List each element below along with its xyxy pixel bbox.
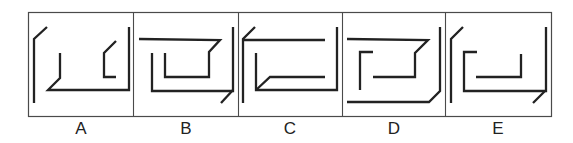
option-label-b: B	[180, 119, 191, 138]
option-panel-b[interactable]: B	[139, 27, 233, 138]
inner-diagonal-stroke	[256, 77, 325, 90]
option-panel-e[interactable]: E	[451, 27, 546, 138]
option-label-e: E	[492, 119, 503, 138]
diagonal-tail-stroke	[533, 91, 545, 103]
left-hook-stroke	[243, 27, 255, 103]
option-panel-c[interactable]: C	[243, 27, 337, 138]
option-label-d: D	[388, 119, 400, 138]
left-hook-stroke	[34, 27, 47, 103]
option-panel-d[interactable]: D	[347, 27, 440, 138]
inner-u-stroke	[464, 27, 546, 91]
small-l-stroke	[360, 52, 373, 90]
small-l-stroke	[476, 54, 521, 77]
main-stroke	[48, 27, 129, 90]
option-label-c: C	[284, 119, 296, 138]
left-hook-stroke	[451, 27, 463, 103]
option-label-a: A	[75, 119, 87, 138]
option-panel-a[interactable]: A	[34, 27, 129, 138]
figure-options-diagram: A B C D E	[0, 0, 573, 143]
figure-frame	[29, 13, 552, 117]
small-bracket-stroke	[104, 41, 116, 77]
inner-u-stroke	[256, 27, 337, 90]
